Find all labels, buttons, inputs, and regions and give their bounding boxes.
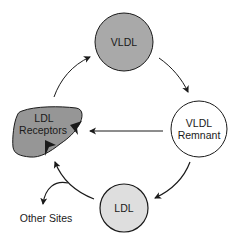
arrow-ldl-to-receptors bbox=[55, 162, 94, 199]
vldl-label: VLDL bbox=[104, 36, 144, 48]
arrow-vldl-to-remnant bbox=[159, 58, 188, 92]
arrow-remnant-to-ldl bbox=[155, 162, 190, 198]
vldl-remnant-label-line1: VLDL bbox=[174, 117, 224, 129]
arrow-to-other-sites bbox=[43, 182, 68, 204]
ldl-receptors-label-line2: Receptors bbox=[16, 124, 70, 136]
ldl-receptors-label-line1: LDL bbox=[19, 112, 69, 124]
other-sites-label: Other Sites bbox=[18, 212, 74, 224]
ldl-label: LDL bbox=[104, 202, 144, 214]
arrow-receptors-to-vldl bbox=[54, 57, 90, 97]
vldl-remnant-label-line2: Remnant bbox=[174, 129, 224, 141]
